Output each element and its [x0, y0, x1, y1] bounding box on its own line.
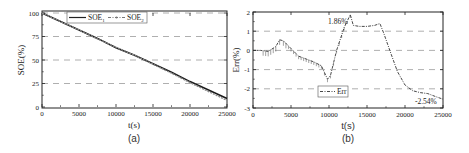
chart-a-panel-label: (a): [128, 133, 140, 144]
y-tick-label: 25: [32, 80, 40, 88]
x-tick-label: 25000: [218, 110, 236, 118]
x-tick-label: 15000: [358, 111, 376, 119]
x-tick-label: 10000: [320, 111, 338, 119]
chart-b-y-axis-title: Err(%): [231, 48, 241, 73]
chart-a-x-axis-title: t(s): [128, 120, 140, 130]
x-tick-label: 20000: [181, 110, 199, 118]
x-tick-label: 0: [251, 111, 255, 119]
y-tick-label: 2: [247, 9, 251, 17]
chart-a-y-axis-title: SOE(%): [16, 45, 26, 76]
chart-b-panel-label: (b): [342, 133, 354, 144]
x-tick-label: 5000: [72, 110, 87, 118]
annotation-final-err: -2.54%: [415, 97, 437, 106]
chart-a-ticks: 02550751000500010000150002000025000: [29, 10, 237, 119]
x-tick-label: 10000: [107, 110, 125, 118]
y-tick-label: -2: [244, 85, 250, 93]
y-tick-label: -3: [244, 105, 250, 113]
chart-a-series: [42, 13, 227, 100]
y-tick-label: 50: [32, 57, 40, 65]
chart-a-gridlines: [42, 13, 227, 84]
x-tick-label: 0: [40, 110, 44, 118]
x-tick-label: 5000: [284, 111, 299, 119]
chart-b-legend: Err: [318, 86, 348, 97]
series-line-soe2: [42, 13, 227, 100]
y-tick-label: 1: [247, 28, 251, 36]
x-tick-label: 25000: [434, 111, 452, 119]
y-tick-label: 0: [247, 47, 251, 55]
figure-canvas: 02550751000500010000150002000025000 SOE1…: [0, 0, 469, 153]
chart-b-x-axis-title: t(s): [341, 120, 355, 131]
y-tick-label: 100: [29, 10, 40, 18]
chart-panel-a: 02550751000500010000150002000025000 SOE1…: [16, 10, 236, 145]
legend-err-label: Err: [337, 87, 347, 96]
y-tick-label: 0: [36, 104, 40, 112]
x-tick-label: 20000: [396, 111, 414, 119]
y-tick-label: 75: [32, 33, 40, 41]
x-tick-label: 15000: [144, 110, 162, 118]
y-tick-label: -1: [244, 66, 250, 74]
chart-a-legend: SOE1 SOE2: [67, 12, 147, 23]
annotation-max-err: 1.86%: [328, 17, 347, 26]
chart-panel-b: -3-2-10120500010000150002000025000 Err 1…: [231, 9, 452, 145]
